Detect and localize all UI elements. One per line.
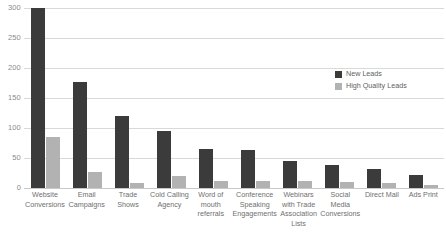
bar-group: [66, 8, 108, 188]
x-axis-tick-label: Trade Shows: [107, 190, 148, 233]
legend-label: New Leads: [346, 70, 382, 78]
x-axis-tick-label: Cold Calling Agency: [149, 190, 190, 233]
bar-high-quality-leads: [424, 185, 438, 188]
axis-baseline: [24, 188, 444, 189]
bar-groups: [24, 8, 444, 188]
x-axis-tick-label: Word of mouth referrals: [190, 190, 231, 233]
plot-area: [24, 8, 444, 188]
x-axis-tick-label: Email Campaigns: [66, 190, 107, 233]
bar-new-leads: [115, 116, 129, 188]
x-axis: Website ConversionsEmail CampaignsTrade …: [24, 190, 444, 233]
legend-swatch-icon: [335, 71, 342, 78]
bar-high-quality-leads: [256, 181, 270, 188]
bar-group: [360, 8, 402, 188]
bar-new-leads: [325, 165, 339, 188]
bar-new-leads: [241, 150, 255, 188]
bar-group: [318, 8, 360, 188]
x-axis-tick-label: Conference Speaking Engagements: [232, 190, 278, 233]
x-axis-tick-label: Website Conversions: [24, 190, 66, 233]
legend-swatch-icon: [335, 83, 342, 90]
bar-new-leads: [199, 149, 213, 188]
y-axis-tick-label: 50: [12, 154, 21, 162]
y-axis-tick-label: 250: [8, 34, 21, 42]
x-axis-tick-label: Social Media Conversions: [319, 190, 361, 233]
bar-high-quality-leads: [46, 137, 60, 188]
bar-group: [192, 8, 234, 188]
x-axis-tick-label: Webinars with Trade Association Lists: [278, 190, 319, 233]
chart-legend: New LeadsHigh Quality Leads: [335, 70, 439, 94]
bar-new-leads: [157, 131, 171, 188]
bar-group: [24, 8, 66, 188]
legend-label: High Quality Leads: [346, 82, 407, 90]
legend-item[interactable]: New Leads: [335, 70, 439, 78]
bar-high-quality-leads: [88, 172, 102, 188]
bar-high-quality-leads: [130, 183, 144, 188]
x-axis-tick-label: Ads Print: [403, 190, 444, 233]
y-axis-tick-label: 150: [8, 94, 21, 102]
bar-new-leads: [283, 161, 297, 188]
bar-new-leads: [367, 169, 381, 188]
y-axis-tick-label: 100: [8, 124, 21, 132]
bar-group: [108, 8, 150, 188]
bar-new-leads: [409, 175, 423, 188]
y-axis-tick-label: 200: [8, 64, 21, 72]
bar-group: [402, 8, 444, 188]
bar-high-quality-leads: [214, 181, 228, 188]
bar-high-quality-leads: [382, 183, 396, 188]
legend-item[interactable]: High Quality Leads: [335, 82, 439, 90]
bar-chart: 300250200150100500 Website ConversionsEm…: [0, 0, 446, 233]
bar-group: [234, 8, 276, 188]
bar-new-leads: [73, 82, 87, 188]
y-axis-tick-label: 300: [8, 4, 21, 12]
bar-high-quality-leads: [340, 182, 354, 188]
bar-group: [150, 8, 192, 188]
bar-new-leads: [31, 8, 45, 188]
bar-high-quality-leads: [298, 181, 312, 188]
x-axis-tick-label: Direct Mail: [361, 190, 402, 233]
bar-group: [276, 8, 318, 188]
y-axis-tick-label: 0: [17, 184, 21, 192]
y-axis: 300250200150100500: [0, 0, 24, 233]
bar-high-quality-leads: [172, 176, 186, 188]
